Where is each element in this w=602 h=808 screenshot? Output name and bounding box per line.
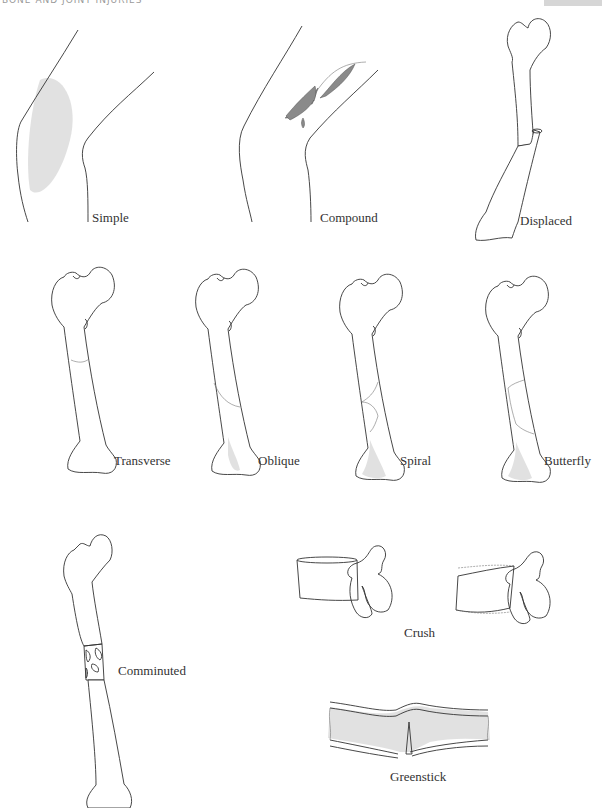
- label-butterfly: Butterfly: [544, 453, 591, 469]
- transverse-fracture-illustration: [52, 267, 117, 473]
- label-spiral: Spiral: [400, 453, 431, 469]
- greenstick-fracture-illustration: [328, 702, 490, 758]
- label-comminuted: Comminuted: [118, 663, 186, 679]
- spiral-fracture-illustration: [340, 274, 405, 480]
- displaced-fracture-illustration: [475, 19, 550, 241]
- oblique-fracture-illustration: [196, 269, 261, 475]
- compound-fracture-illustration: [239, 26, 378, 222]
- label-compound: Compound: [320, 210, 378, 226]
- label-transverse: Transverse: [114, 453, 171, 469]
- crush-fracture-illustration: [297, 546, 550, 624]
- fracture-illustrations: [0, 0, 602, 808]
- label-crush: Crush: [404, 625, 435, 641]
- label-simple: Simple: [92, 210, 129, 226]
- simple-fracture-illustration: [17, 30, 154, 222]
- butterfly-fracture-illustration: [486, 276, 551, 482]
- label-displaced: Displaced: [520, 213, 572, 229]
- label-greenstick: Greenstick: [390, 769, 446, 785]
- label-oblique: Oblique: [258, 453, 300, 469]
